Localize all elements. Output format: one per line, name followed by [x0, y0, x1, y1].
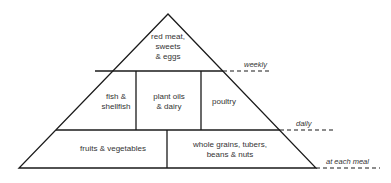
frequency-at-each-meal-label: at each meal — [326, 157, 369, 166]
fruits-vegetables-label: fruits & vegetables — [60, 144, 166, 154]
poultry-label: poultry — [202, 97, 246, 107]
plant-oils-dairy-label: plant oils & dairy — [138, 92, 200, 112]
fish-shellfish-label: fish & shellfish — [95, 92, 137, 112]
whole-grains-label: whole grains, tubers, beans & nuts — [170, 140, 290, 160]
frequency-weekly-label: weekly — [244, 60, 267, 69]
frequency-daily-label: daily — [296, 119, 311, 128]
tier-top-label: red meat, sweets & eggs — [128, 32, 208, 62]
